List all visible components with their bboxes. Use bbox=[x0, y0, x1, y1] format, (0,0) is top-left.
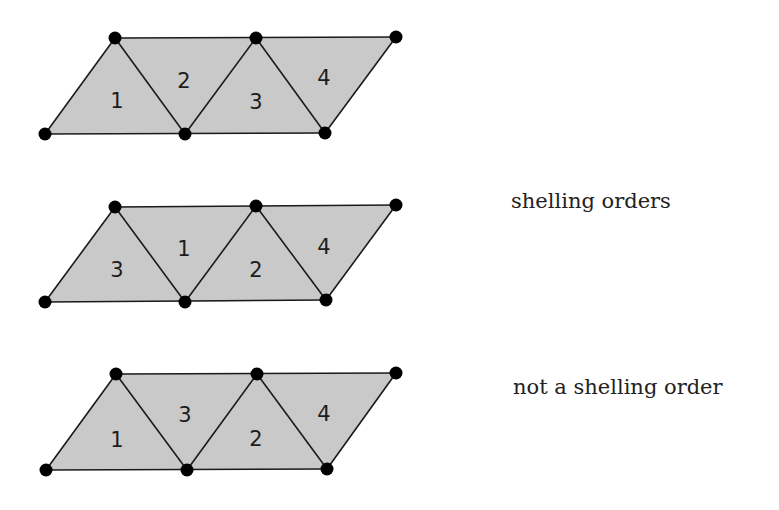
vertex-dot bbox=[251, 368, 264, 381]
triangulation-row-1: 1234 bbox=[39, 31, 403, 141]
vertex-dot bbox=[250, 200, 263, 213]
vertex-dot bbox=[390, 199, 403, 212]
vertex-dot bbox=[109, 201, 122, 214]
vertex-dot bbox=[319, 127, 332, 140]
vertex-dot bbox=[390, 31, 403, 44]
vertex-dot bbox=[110, 368, 123, 381]
triangle-order-label: 1 bbox=[110, 89, 123, 113]
vertex-dot bbox=[320, 294, 333, 307]
vertex-dot bbox=[181, 464, 194, 477]
vertex-dot bbox=[40, 464, 53, 477]
triangle-order-label: 4 bbox=[317, 402, 330, 426]
triangle-order-label: 4 bbox=[317, 235, 330, 259]
shelling-order-figure: 123431241324 shelling orders not a shell… bbox=[0, 0, 779, 510]
triangle-order-label: 3 bbox=[178, 403, 191, 427]
triangle-order-label: 2 bbox=[177, 69, 190, 93]
triangle-order-label: 3 bbox=[249, 90, 262, 114]
triangle-order-label: 2 bbox=[249, 427, 262, 451]
vertex-dot bbox=[179, 296, 192, 309]
triangulation-row-2: 3124 bbox=[39, 199, 403, 309]
triangulation-rows: 123431241324 bbox=[39, 31, 403, 477]
vertex-dot bbox=[390, 367, 403, 380]
triangle-order-label: 1 bbox=[110, 428, 123, 452]
triangle-order-label: 4 bbox=[317, 66, 330, 90]
caption-not-a-shelling-order: not a shelling order bbox=[513, 375, 723, 399]
caption-shelling-orders: shelling orders bbox=[511, 189, 671, 213]
triangle-order-label: 2 bbox=[249, 258, 262, 282]
triangle-order-label: 1 bbox=[177, 237, 190, 261]
vertex-dot bbox=[109, 32, 122, 45]
vertex-dot bbox=[39, 128, 52, 141]
triangulation-row-3: 1324 bbox=[40, 367, 403, 477]
triangle-order-label: 3 bbox=[110, 258, 123, 282]
vertex-dot bbox=[321, 463, 334, 476]
vertex-dot bbox=[179, 128, 192, 141]
vertex-dot bbox=[39, 296, 52, 309]
vertex-dot bbox=[250, 32, 263, 45]
triangulation-diagrams: 123431241324 bbox=[0, 0, 779, 510]
